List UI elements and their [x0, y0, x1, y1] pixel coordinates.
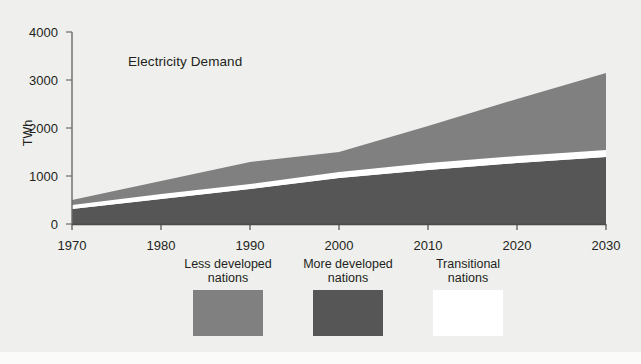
- legend-swatch-transitional-nations: [433, 290, 503, 336]
- page-bottom-strip: [0, 352, 641, 364]
- chart-figure: Electricity Demand TWh 4000 3000 2000 10…: [0, 0, 641, 364]
- x-tick-label-2010: 2010: [398, 238, 458, 253]
- y-tick-label-1000: 1000: [10, 169, 58, 184]
- legend-label-more-developed-nations: More developed nations: [303, 257, 393, 285]
- legend-item-more-developed-nations: More developed nations: [300, 257, 396, 336]
- y-tick-label-4000: 4000: [10, 25, 58, 40]
- x-tick-label-2020: 2020: [487, 238, 547, 253]
- x-tick-label-2030: 2030: [576, 238, 636, 253]
- legend-swatch-less-developed-nations: [193, 290, 263, 336]
- legend-swatch-more-developed-nations: [313, 290, 383, 336]
- y-tick-label-2000: 2000: [10, 121, 58, 136]
- x-tick-label-1970: 1970: [42, 238, 102, 253]
- x-tick-label-1980: 1980: [131, 238, 191, 253]
- x-tick-label-1990: 1990: [220, 238, 280, 253]
- legend-item-transitional-nations: Transitional nations: [420, 257, 516, 336]
- chart-legend: Less developed nations More developed na…: [180, 257, 516, 336]
- legend-label-transitional-nations: Transitional nations: [436, 257, 500, 285]
- x-tick-label-2000: 2000: [309, 238, 369, 253]
- y-tick-label-3000: 3000: [10, 73, 58, 88]
- y-tick-label-0: 0: [10, 217, 58, 232]
- legend-item-less-developed-nations: Less developed nations: [180, 257, 276, 336]
- chart-title: Electricity Demand: [128, 54, 242, 69]
- legend-label-less-developed-nations: Less developed nations: [184, 257, 272, 285]
